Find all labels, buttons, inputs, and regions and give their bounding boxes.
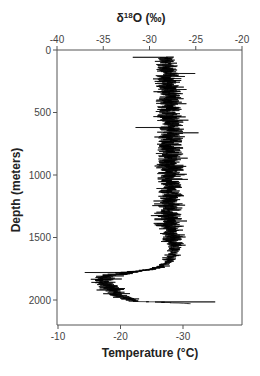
y-axis-title: Depth (meters) (9, 148, 23, 233)
top-axis-ticks: -40-35-30-25-20 (50, 34, 250, 50)
top-axis-title-prefix: δ (117, 11, 124, 25)
series-segment (156, 226, 185, 260)
series-delta18o (85, 57, 215, 304)
series-segment (133, 57, 195, 91)
left-axis-ticks: 0500100015002000 (29, 45, 57, 306)
left-tick-label: 1000 (29, 170, 52, 181)
top-tick-label: -40 (50, 34, 65, 45)
top-tick-label: -35 (96, 34, 111, 45)
bottom-tick-label: -20 (113, 331, 128, 342)
series-segment (151, 192, 187, 226)
series-segment (85, 259, 176, 293)
bottom-tick-label: -10 (51, 331, 66, 342)
series-segment (155, 158, 188, 192)
left-tick-label: 2000 (29, 295, 52, 306)
top-axis-title: δ18O (‰) (117, 11, 166, 25)
plot-frame (57, 50, 242, 325)
bottom-axis-title: Temperature (°C) (102, 346, 199, 360)
left-tick-label: 0 (45, 45, 51, 56)
top-tick-label: -30 (142, 34, 157, 45)
series-segment (153, 91, 188, 125)
series-segment (103, 293, 215, 304)
chart: δ18O (‰) -40-35-30-25-20 -10-20-30 05001… (0, 0, 260, 376)
bottom-tick-label: -30 (176, 331, 191, 342)
top-tick-label: -20 (235, 34, 250, 45)
bottom-axis-ticks: -10-20-30 (51, 325, 191, 342)
left-tick-label: 500 (34, 107, 51, 118)
series-segment (136, 124, 199, 158)
left-tick-label: 1500 (29, 232, 52, 243)
top-axis-title-suffix: O (‰) (133, 11, 166, 25)
top-tick-label: -25 (189, 34, 204, 45)
